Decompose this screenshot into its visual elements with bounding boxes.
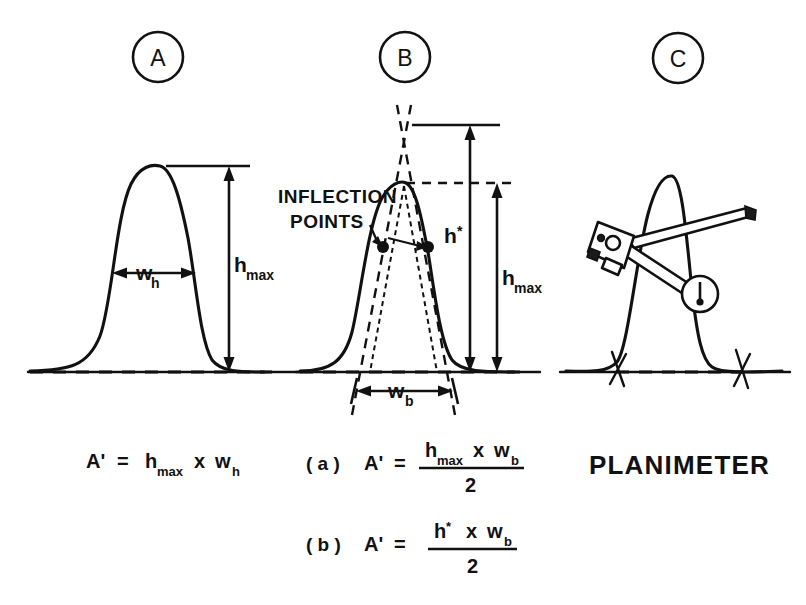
panel-b-formula-a-factor-sub: b: [511, 453, 519, 468]
panel-a-formula-eq: =: [117, 450, 129, 472]
panel-b-formula-a-factor: w: [493, 439, 510, 461]
panel-a-formula-numerator: h: [145, 450, 157, 472]
panel-b-hstar-label-h: h: [444, 224, 457, 247]
panel-b-formula-a-lhs: A': [364, 452, 383, 474]
panel-b-wb-label-w: w: [387, 379, 405, 402]
panel-a-formula-lhs: A': [86, 450, 105, 472]
panel-b-formula-b-factor-sub: b: [504, 534, 512, 549]
panel-b-formula-a-numerator: h: [425, 439, 437, 461]
panel-b-formula-a-times: x: [473, 439, 484, 461]
planimeter-carriage-dial: [606, 236, 620, 250]
panel-b-wb-label-sub: b: [405, 393, 414, 409]
panel-c-caption: PLANIMETER: [589, 450, 770, 480]
panel-b-formula-b-lhs: A': [364, 533, 383, 555]
planimeter-wheel-hub: [696, 298, 703, 305]
panel-b-letter: B: [397, 45, 412, 71]
panel-a-formula-factor: w: [214, 450, 231, 472]
figure-canvas: A h max w h A': [0, 0, 806, 605]
panel-b-inflection-line2: POINTS: [290, 211, 364, 232]
panel-a-wh-label-sub: h: [151, 275, 160, 291]
panel-a-hmax-label-h: h: [234, 253, 247, 276]
panel-b-formula-a-eq: =: [394, 452, 406, 474]
panel-a-formula-numerator-sub: max: [157, 464, 184, 479]
panel-b-formula-b-numerator: h: [434, 520, 446, 542]
panel-b-formula-b-index: ( b ): [306, 534, 341, 555]
panel-b-hstar-label-mark: *: [457, 223, 463, 239]
panel-b-formula-b-eq: =: [394, 533, 406, 555]
panel-a-hmax-label-sub: max: [246, 267, 274, 283]
panel-b-hmax-label-sub: max: [514, 280, 542, 296]
panel-a-letter: A: [150, 45, 166, 71]
panel-b-formula-a-numerator-sub: max: [437, 453, 464, 468]
panel-a-formula-factor-sub: h: [232, 464, 240, 479]
panel-b-formula-b-times: x: [466, 520, 477, 542]
planimeter-carriage-screw: [598, 235, 605, 242]
panel-a-formula-times: x: [194, 450, 205, 472]
peak-area-methods-figure: A h max w h A': [0, 0, 806, 605]
panel-b-formula-b-denominator: 2: [467, 555, 478, 577]
panel-b-hmax-label-h: h: [502, 266, 515, 289]
panel-c-letter: C: [670, 46, 687, 72]
panel-b-formula-a-denominator: 2: [465, 474, 476, 496]
panel-b-formula-a-index: ( a ): [306, 453, 340, 474]
panel-b-formula-b-factor: w: [486, 520, 503, 542]
panel-b-inflection-line1: INFLECTION: [278, 186, 397, 207]
